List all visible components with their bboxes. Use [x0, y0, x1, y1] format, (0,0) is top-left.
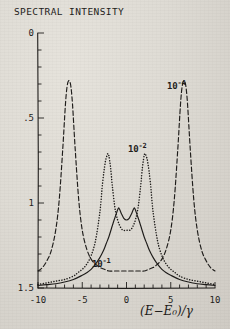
spectral-intensity-plot [0, 0, 230, 329]
y-axis-ticks [38, 33, 44, 288]
y-tick-label: 1 [6, 199, 34, 208]
y-tick-label: 1.5 [6, 284, 34, 293]
axes [38, 33, 215, 288]
curve-dotted [38, 154, 215, 285]
curve-dashed [38, 81, 215, 272]
curve-label-10e-1-exponent: -1 [102, 257, 110, 265]
x-tick-label: 10 [200, 296, 230, 305]
y-tick-label: 0 [6, 29, 34, 38]
x-axis-ticks [38, 282, 215, 288]
curve-label-10e-2-exponent: -2 [138, 142, 146, 150]
x-tick-label: -5 [67, 296, 97, 305]
y-tick-label: .5 [6, 114, 34, 123]
curve-label-10e-1: 10-1 [92, 258, 110, 269]
curve-label-10e-2-base: 10 [128, 144, 138, 154]
y-axis-line [38, 33, 39, 288]
curve-label-10e-2: 10-2 [128, 143, 146, 154]
curve-label-10e-4: 10-4 [167, 80, 185, 91]
x-axis-label: (E−E₀)/γ [140, 305, 193, 317]
curve-solid [38, 208, 215, 286]
curve-label-10e-1-base: 10 [92, 259, 102, 269]
curve-label-10e-4-exponent: -4 [177, 79, 185, 87]
x-tick-label: -10 [23, 296, 53, 305]
x-tick-label: 0 [112, 296, 142, 305]
curve-label-10e-4-base: 10 [167, 81, 177, 91]
data-curves [38, 81, 215, 286]
